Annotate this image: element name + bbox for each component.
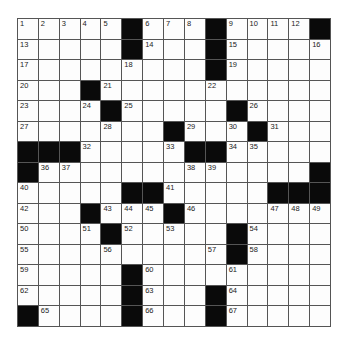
grid-cell[interactable] <box>227 81 247 101</box>
grid-cell[interactable]: 46 <box>185 204 205 224</box>
grid-cell[interactable] <box>310 122 330 142</box>
grid-cell[interactable] <box>39 81 59 101</box>
grid-cell[interactable] <box>206 204 226 224</box>
grid-cell[interactable]: 34 <box>227 142 247 162</box>
grid-cell[interactable] <box>289 101 309 121</box>
grid-cell[interactable] <box>248 265 268 285</box>
grid-cell[interactable] <box>60 60 80 80</box>
grid-cell[interactable] <box>289 286 309 306</box>
grid-cell[interactable] <box>143 81 163 101</box>
grid-cell[interactable] <box>60 81 80 101</box>
grid-cell[interactable]: 7 <box>164 19 184 39</box>
grid-cell[interactable]: 31 <box>268 122 288 142</box>
grid-cell[interactable] <box>122 81 142 101</box>
grid-cell[interactable] <box>268 101 288 121</box>
grid-cell[interactable] <box>289 163 309 183</box>
grid-cell[interactable]: 57 <box>206 245 226 265</box>
grid-cell[interactable]: 49 <box>310 204 330 224</box>
grid-cell[interactable] <box>206 183 226 203</box>
grid-cell[interactable] <box>206 101 226 121</box>
grid-cell[interactable]: 5 <box>101 19 121 39</box>
grid-cell[interactable]: 2 <box>39 19 59 39</box>
grid-cell[interactable]: 36 <box>39 163 59 183</box>
grid-cell[interactable]: 6 <box>143 19 163 39</box>
grid-cell[interactable] <box>248 183 268 203</box>
grid-cell[interactable] <box>101 286 121 306</box>
grid-cell[interactable] <box>60 40 80 60</box>
grid-cell[interactable]: 47 <box>268 204 288 224</box>
grid-cell[interactable] <box>39 122 59 142</box>
grid-cell[interactable] <box>164 245 184 265</box>
grid-cell[interactable]: 40 <box>18 183 38 203</box>
grid-cell[interactable] <box>248 306 268 326</box>
grid-cell[interactable] <box>310 81 330 101</box>
grid-cell[interactable] <box>185 60 205 80</box>
grid-cell[interactable] <box>101 306 121 326</box>
grid-cell[interactable] <box>143 122 163 142</box>
grid-cell[interactable] <box>60 306 80 326</box>
grid-cell[interactable] <box>248 286 268 306</box>
grid-cell[interactable]: 4 <box>81 19 101 39</box>
grid-cell[interactable] <box>122 245 142 265</box>
grid-cell[interactable] <box>143 245 163 265</box>
grid-cell[interactable]: 45 <box>143 204 163 224</box>
grid-cell[interactable] <box>164 60 184 80</box>
grid-cell[interactable] <box>164 81 184 101</box>
grid-cell[interactable]: 65 <box>39 306 59 326</box>
grid-cell[interactable] <box>185 245 205 265</box>
grid-cell[interactable]: 41 <box>164 183 184 203</box>
grid-cell[interactable] <box>39 224 59 244</box>
grid-cell[interactable] <box>60 224 80 244</box>
grid-cell[interactable] <box>289 40 309 60</box>
grid-cell[interactable] <box>289 122 309 142</box>
grid-cell[interactable] <box>248 81 268 101</box>
grid-cell[interactable]: 50 <box>18 224 38 244</box>
grid-cell[interactable] <box>39 183 59 203</box>
grid-cell[interactable] <box>164 101 184 121</box>
grid-cell[interactable] <box>227 204 247 224</box>
grid-cell[interactable] <box>39 60 59 80</box>
grid-cell[interactable] <box>164 306 184 326</box>
grid-cell[interactable] <box>185 183 205 203</box>
grid-cell[interactable]: 67 <box>227 306 247 326</box>
grid-cell[interactable] <box>122 163 142 183</box>
grid-cell[interactable] <box>81 265 101 285</box>
grid-cell[interactable]: 24 <box>81 101 101 121</box>
grid-cell[interactable] <box>185 81 205 101</box>
grid-cell[interactable] <box>60 245 80 265</box>
grid-cell[interactable] <box>60 204 80 224</box>
grid-cell[interactable] <box>39 286 59 306</box>
grid-cell[interactable] <box>101 60 121 80</box>
grid-cell[interactable]: 25 <box>122 101 142 121</box>
grid-cell[interactable]: 27 <box>18 122 38 142</box>
grid-cell[interactable] <box>101 163 121 183</box>
grid-cell[interactable]: 66 <box>143 306 163 326</box>
grid-cell[interactable] <box>248 163 268 183</box>
grid-cell[interactable]: 54 <box>248 224 268 244</box>
grid-cell[interactable] <box>81 183 101 203</box>
grid-cell[interactable] <box>185 286 205 306</box>
grid-cell[interactable] <box>60 101 80 121</box>
grid-cell[interactable] <box>143 101 163 121</box>
grid-cell[interactable]: 8 <box>185 19 205 39</box>
grid-cell[interactable] <box>227 183 247 203</box>
grid-cell[interactable] <box>310 224 330 244</box>
grid-cell[interactable]: 64 <box>227 286 247 306</box>
grid-cell[interactable] <box>248 60 268 80</box>
grid-cell[interactable]: 62 <box>18 286 38 306</box>
grid-cell[interactable]: 3 <box>60 19 80 39</box>
grid-cell[interactable] <box>268 224 288 244</box>
grid-cell[interactable] <box>164 265 184 285</box>
grid-cell[interactable] <box>289 265 309 285</box>
grid-cell[interactable]: 44 <box>122 204 142 224</box>
grid-cell[interactable]: 16 <box>310 40 330 60</box>
grid-cell[interactable] <box>185 224 205 244</box>
grid-cell[interactable] <box>39 245 59 265</box>
grid-cell[interactable]: 52 <box>122 224 142 244</box>
grid-cell[interactable] <box>143 224 163 244</box>
grid-cell[interactable] <box>310 265 330 285</box>
grid-cell[interactable]: 9 <box>227 19 247 39</box>
grid-cell[interactable]: 10 <box>248 19 268 39</box>
grid-cell[interactable] <box>81 60 101 80</box>
grid-cell[interactable]: 43 <box>101 204 121 224</box>
